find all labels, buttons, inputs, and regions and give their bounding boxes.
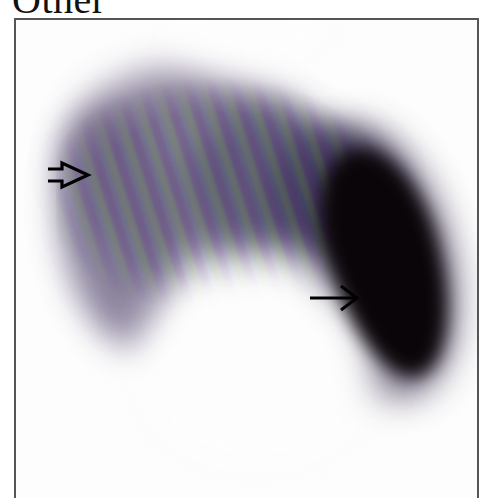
figure-label: Other [12, 0, 106, 20]
line-arrow-icon [309, 283, 361, 313]
open-arrow-icon [46, 160, 92, 190]
scintigraphy-scan [16, 20, 477, 498]
scan-image-frame [14, 18, 479, 498]
